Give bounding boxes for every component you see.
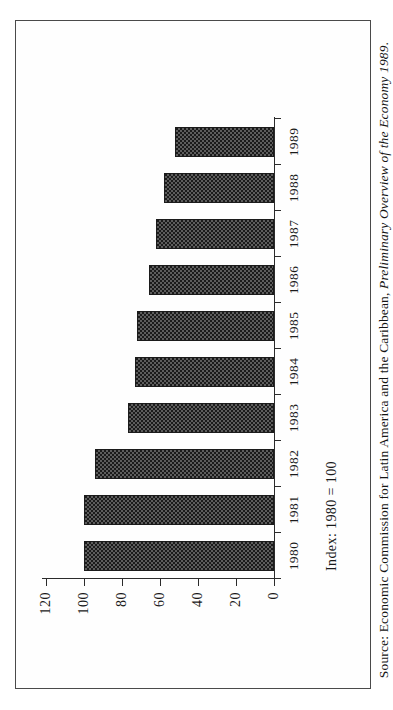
source-note: Source: Economic Commission for Latin Am… — [376, 42, 392, 678]
category-label-1985: 1985 — [286, 311, 302, 340]
bar-1984 — [135, 357, 274, 387]
category-label-1986: 1986 — [286, 265, 302, 294]
value-tick-label-40: 40 — [190, 586, 206, 607]
category-tick-7 — [274, 256, 281, 257]
category-label-1982: 1982 — [286, 449, 302, 478]
value-tick-label-20: 20 — [228, 586, 244, 607]
value-tick-80 — [122, 578, 123, 586]
value-tick-100 — [84, 578, 85, 586]
bar-1985 — [137, 311, 274, 341]
value-tick-60 — [160, 578, 161, 586]
chart-rotation-container: 020406080100120 198019811982198319841985… — [15, 20, 371, 689]
bar-1981 — [84, 495, 274, 525]
category-tick-2 — [274, 486, 281, 487]
bar-1989 — [175, 127, 274, 157]
category-tick-10 — [274, 118, 281, 119]
source-prefix: Source: Economic Commission for Latin Am… — [376, 289, 391, 678]
index-annotation: Index: 1980 = 100 — [324, 461, 340, 571]
bar-1986 — [149, 265, 274, 295]
bar-1983 — [128, 403, 274, 433]
value-tick-40 — [198, 578, 199, 586]
source-publication-title: Preliminary Overview of the Economy 1989 — [376, 45, 391, 289]
bar-1982 — [95, 449, 274, 479]
category-label-1988: 1988 — [286, 173, 302, 202]
value-tick-label-100: 100 — [76, 586, 92, 615]
scanned-page: 020406080100120 198019811982198319841985… — [0, 0, 393, 710]
category-label-1987: 1987 — [286, 219, 302, 248]
category-tick-6 — [274, 302, 281, 303]
category-tick-1 — [274, 532, 281, 533]
value-tick-label-80: 80 — [114, 586, 130, 607]
plot-area — [46, 119, 274, 579]
category-tick-9 — [274, 164, 281, 165]
category-tick-3 — [274, 440, 281, 441]
category-label-1984: 1984 — [286, 357, 302, 386]
source-suffix: . — [376, 42, 391, 46]
category-label-1989: 1989 — [286, 127, 302, 156]
value-tick-label-120: 120 — [38, 586, 54, 615]
value-tick-20 — [236, 578, 237, 586]
value-tick-label-60: 60 — [152, 586, 168, 607]
bar-1980 — [84, 541, 274, 571]
category-tick-8 — [274, 210, 281, 211]
category-label-1980: 1980 — [286, 541, 302, 570]
category-label-1981: 1981 — [286, 495, 302, 524]
category-tick-5 — [274, 348, 281, 349]
category-tick-4 — [274, 394, 281, 395]
source-note-container: Source: Economic Commission for Latin Am… — [374, 20, 393, 700]
value-tick-120 — [46, 578, 47, 586]
category-tick-0 — [274, 578, 281, 579]
bar-1988 — [164, 173, 274, 203]
bar-chart: 020406080100120 198019811982198319841985… — [28, 35, 358, 675]
bar-1987 — [156, 219, 274, 249]
category-label-1983: 1983 — [286, 403, 302, 432]
value-tick-label-0: 0 — [266, 586, 282, 600]
